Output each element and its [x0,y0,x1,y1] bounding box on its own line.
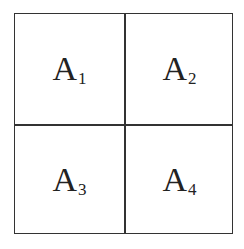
cell-subscript: 2 [188,69,197,89]
cell-a1: A1 [15,14,124,124]
cell-subscript: 4 [188,180,197,200]
cell-label: A [162,52,187,86]
grid-square: A1 A2 A3 A4 [14,13,233,234]
cell-a2: A2 [125,14,234,124]
cell-a3: A3 [15,125,124,235]
cell-subscript: 1 [78,69,87,89]
cell-a4: A4 [125,125,234,235]
cell-label: A [52,163,77,197]
cell-subscript: 3 [78,180,87,200]
cell-label: A [52,52,77,86]
cell-label: A [162,163,187,197]
